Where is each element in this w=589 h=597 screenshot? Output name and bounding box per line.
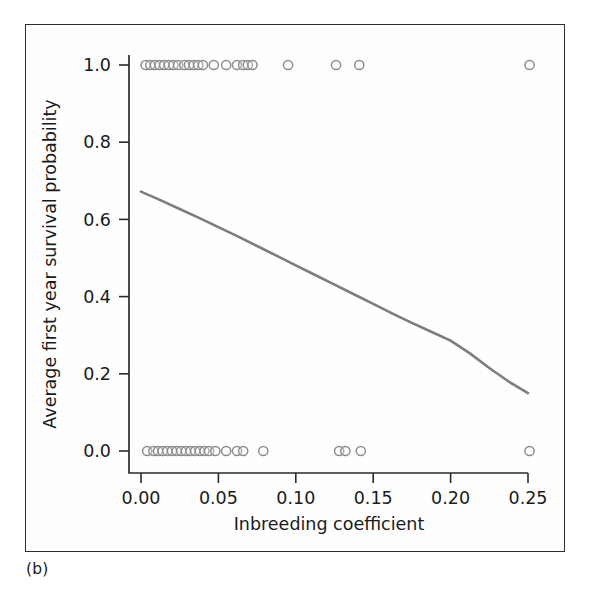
- data-point: [525, 446, 534, 455]
- x-tick-label: 0.00: [122, 488, 161, 508]
- data-point: [355, 60, 364, 69]
- data-point: [331, 60, 340, 69]
- data-point: [259, 446, 268, 455]
- x-tick-label: 0.25: [509, 488, 548, 508]
- y-tick-label: 1.0: [83, 55, 111, 75]
- data-point: [525, 60, 534, 69]
- x-tick-label: 0.10: [276, 488, 315, 508]
- x-axis-tickmarks: [141, 473, 528, 483]
- data-point: [209, 60, 218, 69]
- data-point: [222, 60, 231, 69]
- x-tick-label: 0.15: [354, 488, 393, 508]
- y-axis-title: Average first year survival probability: [40, 99, 60, 428]
- y-tick-label: 0.8: [83, 132, 111, 152]
- figure-panel-border: 0.000.050.100.150.200.25 0.00.20.40.60.8…: [25, 24, 565, 552]
- x-axis-tick-labels: 0.000.050.100.150.200.25: [122, 488, 548, 508]
- scatter-plot: 0.000.050.100.150.200.25 0.00.20.40.60.8…: [26, 25, 566, 553]
- data-points-survived: [141, 60, 534, 69]
- data-point: [239, 446, 248, 455]
- y-tick-label: 0.6: [83, 210, 111, 230]
- data-point: [198, 60, 207, 69]
- data-point: [248, 60, 257, 69]
- axis-spines: [129, 55, 528, 473]
- data-point: [283, 60, 292, 69]
- y-tick-label: 0.2: [83, 364, 111, 384]
- logistic-fit-curve: [141, 192, 528, 393]
- y-tick-label: 0.0: [83, 441, 111, 461]
- data-point: [222, 446, 231, 455]
- x-tick-label: 0.20: [431, 488, 470, 508]
- panel-label: (b): [26, 560, 49, 578]
- data-points-died: [143, 446, 535, 455]
- x-axis-title: Inbreeding coefficient: [234, 514, 425, 534]
- data-point: [211, 446, 220, 455]
- data-point: [341, 446, 350, 455]
- y-axis-tickmarks: [119, 65, 129, 451]
- y-tick-label: 0.4: [83, 287, 111, 307]
- y-axis-tick-labels: 0.00.20.40.60.81.0: [83, 55, 111, 461]
- x-tick-label: 0.05: [199, 488, 238, 508]
- data-point: [356, 446, 365, 455]
